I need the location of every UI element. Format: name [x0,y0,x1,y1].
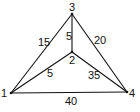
weight-3-2: 5 [66,30,72,42]
node-3 [71,13,74,16]
weight-3-4: 20 [94,34,106,46]
node-label-3: 3 [69,1,75,13]
weight-1-4: 40 [65,95,77,107]
edge-1-2 [11,52,72,93]
node-label-4: 4 [129,87,135,99]
node-1 [10,92,13,95]
node-label-2: 2 [69,54,75,66]
weight-1-2: 5 [47,67,53,79]
graph-svg: 1 2 3 4 15 5 20 5 35 40 [0,0,140,112]
graph-diagram: 1 2 3 4 15 5 20 5 35 40 [0,0,140,112]
edge-1-4 [11,92,127,93]
node-4 [126,91,129,94]
node-2 [71,51,74,54]
node-label-1: 1 [1,87,7,99]
weight-1-3: 15 [38,36,50,48]
edge-1-3 [11,14,72,93]
weight-2-4: 35 [88,69,100,81]
